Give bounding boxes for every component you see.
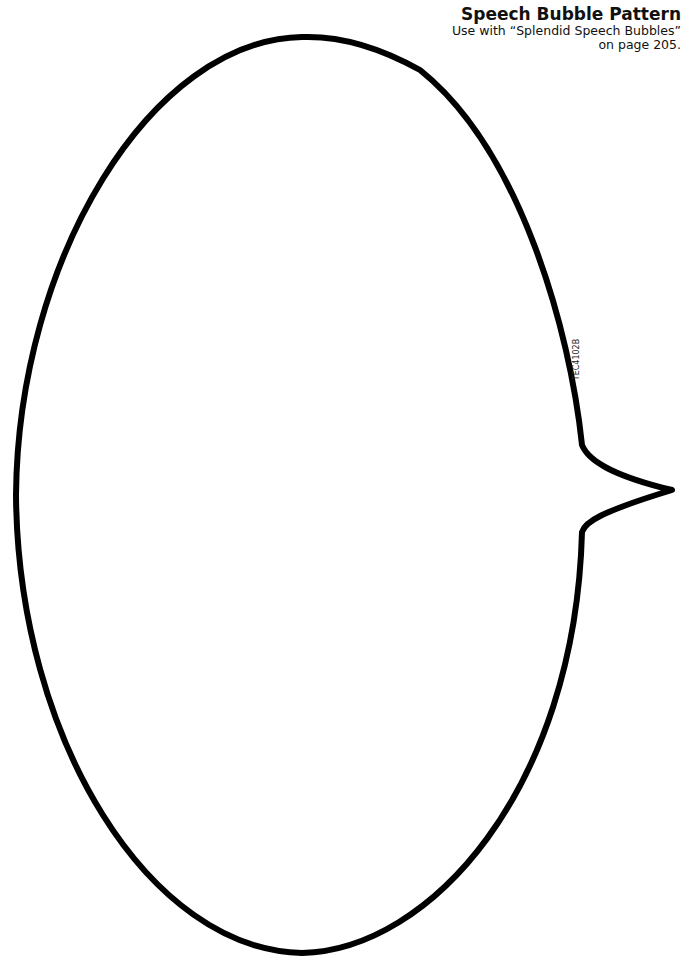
bubble-shape — [16, 37, 672, 953]
speech-bubble-outline — [0, 0, 691, 966]
product-code-label: TEC4102B — [572, 339, 581, 380]
